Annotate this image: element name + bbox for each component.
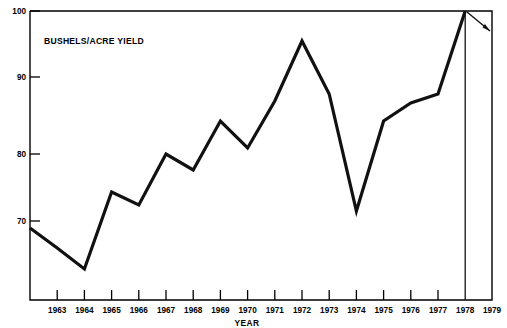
y-tick-label: 90 <box>17 73 27 82</box>
data-series-line <box>30 11 465 269</box>
x-axis-ticks <box>57 290 438 300</box>
x-tick-label: 1970 <box>238 306 257 315</box>
x-tick-label: 1971 <box>266 306 285 315</box>
x-axis-title: YEAR <box>235 318 260 328</box>
line-chart-svg: 100 90 80 70 1963 1964 1965 <box>0 0 507 328</box>
x-tick-label: 1974 <box>347 306 366 315</box>
x-tick-label: 1976 <box>402 306 421 315</box>
x-tick-label: 1969 <box>211 306 230 315</box>
arrow-annotation <box>467 12 490 31</box>
x-tick-label: 1979 <box>483 306 502 315</box>
x-tick-label: 1978 <box>456 306 475 315</box>
x-tick-label: 1963 <box>48 306 67 315</box>
chart-title: BUSHELS/ACRE YIELD <box>44 36 144 46</box>
x-tick-label: 1975 <box>374 306 393 315</box>
x-axis-tick-labels: 1963 1964 1965 1966 1967 1968 1969 1970 … <box>48 306 501 315</box>
x-tick-label: 1977 <box>429 306 448 315</box>
chart-figure: 100 90 80 70 1963 1964 1965 <box>0 0 507 328</box>
axis-frame <box>30 11 492 300</box>
y-tick-label: 100 <box>12 7 26 16</box>
x-tick-label: 1964 <box>75 306 94 315</box>
x-tick-label: 1967 <box>157 306 176 315</box>
x-tick-label: 1965 <box>102 306 121 315</box>
x-tick-label: 1972 <box>293 306 312 315</box>
y-axis-tick-labels: 100 90 80 70 <box>12 7 26 226</box>
x-tick-label: 1968 <box>184 306 203 315</box>
x-tick-label: 1966 <box>130 306 149 315</box>
x-tick-label: 1973 <box>320 306 339 315</box>
y-tick-label: 70 <box>17 217 27 226</box>
y-tick-label: 80 <box>17 150 27 159</box>
y-axis-ticks <box>30 11 40 221</box>
